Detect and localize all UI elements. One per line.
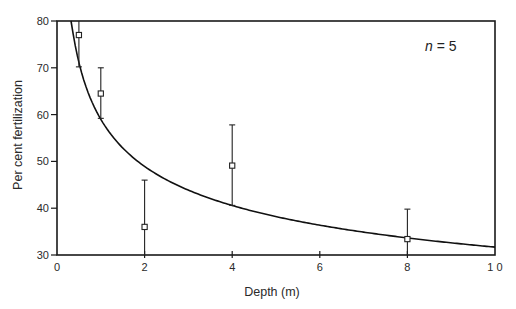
x-tick-label: 1 0 [487, 261, 502, 273]
square-marker-icon [76, 32, 81, 37]
fitted-curve [71, 21, 495, 247]
data-point [142, 180, 148, 255]
sample-size-eq: = [433, 38, 449, 54]
y-axis-label: Per cent fertilization [11, 80, 25, 190]
x-tick-label: 0 [54, 261, 60, 273]
y-tick-label: 80 [37, 15, 49, 27]
y-tick-label: 30 [37, 249, 49, 261]
data-point [76, 21, 82, 67]
data-point [404, 209, 410, 255]
sample-size-value: 5 [449, 38, 457, 54]
plot-area [57, 21, 495, 255]
x-tick-label: 8 [404, 261, 410, 273]
y-tick-label: 50 [37, 155, 49, 167]
square-marker-icon [98, 91, 103, 96]
data-point [98, 68, 104, 119]
square-marker-icon [405, 236, 410, 241]
y-axis: 304050607080 [37, 15, 57, 261]
x-tick-label: 4 [229, 261, 235, 273]
fitted-curve-line [71, 21, 495, 247]
data-point [229, 125, 235, 205]
sample-size-annotation: n = 5 [425, 38, 457, 54]
sample-size-var: n [425, 38, 433, 54]
x-tick-label: 6 [317, 261, 323, 273]
square-marker-icon [230, 163, 235, 168]
y-tick-label: 70 [37, 62, 49, 74]
plot-frame [57, 21, 495, 255]
data-points [76, 21, 411, 255]
square-marker-icon [142, 224, 147, 229]
x-axis-label: Depth (m) [244, 285, 300, 299]
y-tick-label: 40 [37, 202, 49, 214]
chart: 304050607080 024681 0 Per cent fertiliza… [0, 0, 516, 309]
y-tick-label: 60 [37, 109, 49, 121]
x-tick-label: 2 [142, 261, 148, 273]
